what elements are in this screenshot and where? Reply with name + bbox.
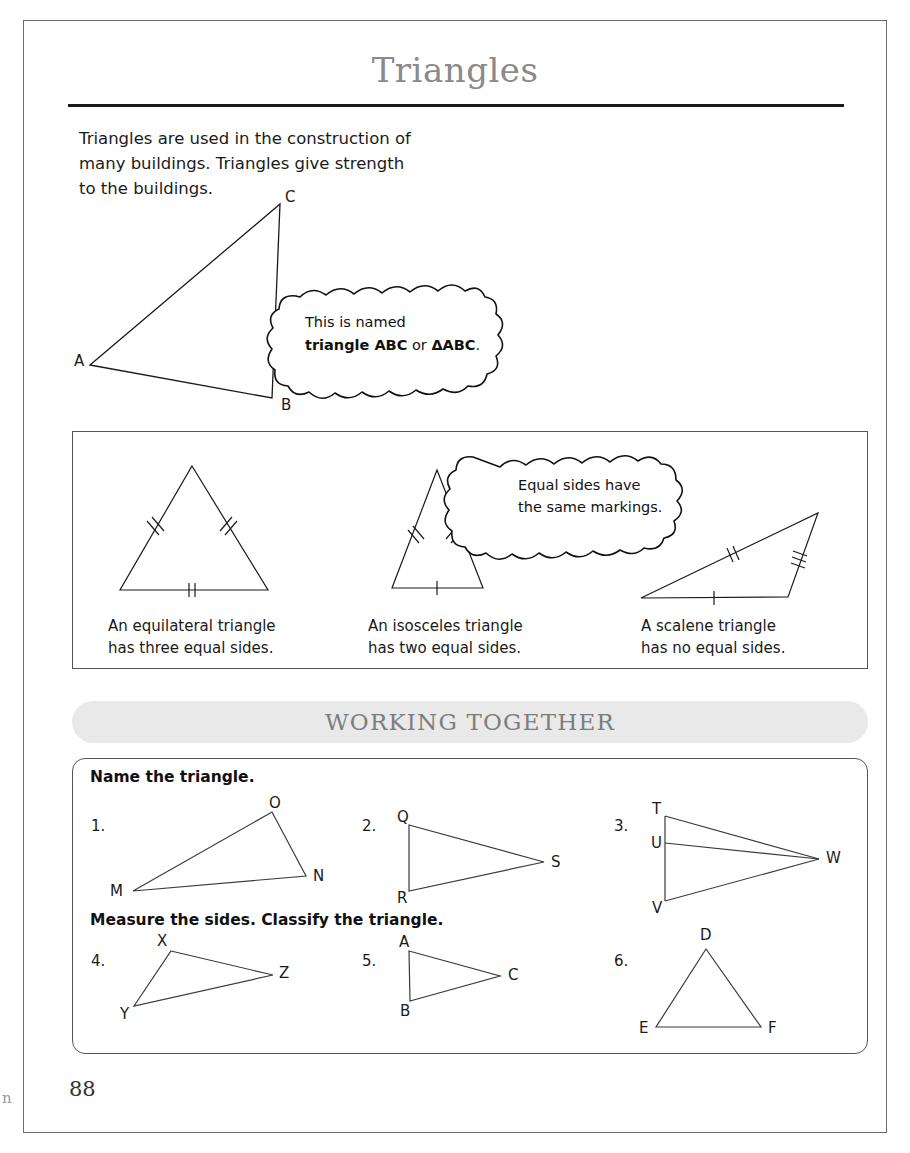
bubble-abc-line-1: This is named: [305, 312, 406, 333]
exercise-1-vertex-n: N: [313, 869, 324, 884]
page-title: Triangles: [0, 50, 910, 90]
exercise-2-vertex-r: R: [397, 891, 407, 906]
exercise-number-3: 3.: [614, 817, 628, 835]
bubble-abc-line-2: triangle ABC or ΔABC.: [305, 335, 480, 356]
isosceles-caption-line-1: An isosceles triangle: [368, 615, 523, 637]
bubble-abc-bold-1: triangle ABC: [305, 337, 407, 353]
page-number: 88: [69, 1077, 96, 1101]
working-together-label: WORKING TOGETHER: [72, 709, 868, 735]
equilateral-caption: An equilateral triangle has three equal …: [108, 615, 276, 659]
vertex-label-c: C: [285, 190, 295, 205]
isosceles-caption-line-2: has two equal sides.: [368, 637, 523, 659]
title-divider: [68, 104, 844, 107]
exercise-5-vertex-b: B: [400, 1004, 410, 1019]
exercise-6-vertex-f: F: [768, 1021, 777, 1036]
exercise-number-6: 6.: [614, 952, 628, 970]
exercise-3-vertex-u: U: [651, 836, 662, 851]
exercise-heading-name: Name the triangle.: [90, 768, 255, 786]
exercise-4-vertex-z: Z: [279, 966, 289, 981]
exercise-3-vertex-t: T: [652, 802, 661, 817]
scalene-caption-line-1: A scalene triangle: [641, 615, 785, 637]
bubble-abc-end: .: [476, 337, 481, 353]
intro-line-2: many buildings. Triangles give strength: [79, 151, 499, 176]
isosceles-caption: An isosceles triangle has two equal side…: [368, 615, 523, 659]
vertex-label-b: B: [281, 398, 291, 413]
exercise-number-1: 1.: [91, 817, 105, 835]
bubble-abc-mid: or: [407, 337, 431, 353]
exercise-4-vertex-y: Y: [120, 1007, 129, 1022]
scalene-caption-line-2: has no equal sides.: [641, 637, 785, 659]
exercise-2-vertex-q: Q: [397, 810, 409, 825]
exercise-6-vertex-e: E: [639, 1021, 648, 1036]
exercise-box: [72, 758, 868, 1054]
exercise-5-vertex-a: A: [399, 935, 409, 950]
exercise-4-vertex-x: X: [157, 934, 167, 949]
bubble-markings-line-1: Equal sides have: [518, 475, 641, 496]
exercise-number-5: 5.: [362, 952, 376, 970]
exercise-3-vertex-w: W: [826, 851, 841, 866]
exercise-2-vertex-s: S: [551, 855, 561, 870]
exercise-number-4: 4.: [91, 952, 105, 970]
scalene-caption: A scalene triangle has no equal sides.: [641, 615, 785, 659]
exercise-1-vertex-m: M: [110, 884, 123, 899]
exercise-3-vertex-v: V: [652, 901, 662, 916]
exercise-heading-measure: Measure the sides. Classify the triangle…: [90, 911, 443, 929]
vertex-label-a: A: [74, 354, 84, 369]
exercise-1-vertex-o: O: [269, 796, 281, 811]
bubble-abc-bold-2: ΔABC: [431, 337, 475, 353]
exercise-number-2: 2.: [362, 817, 376, 835]
bubble-markings-line-2: the same markings.: [518, 497, 662, 518]
exercise-6-vertex-d: D: [700, 928, 712, 943]
equilateral-caption-line-1: An equilateral triangle: [108, 615, 276, 637]
equilateral-caption-line-2: has three equal sides.: [108, 637, 276, 659]
page-edge-artifact: n: [2, 1090, 14, 1106]
exercise-5-vertex-c: C: [508, 968, 518, 983]
intro-line-1: Triangles are used in the construction o…: [79, 126, 499, 151]
